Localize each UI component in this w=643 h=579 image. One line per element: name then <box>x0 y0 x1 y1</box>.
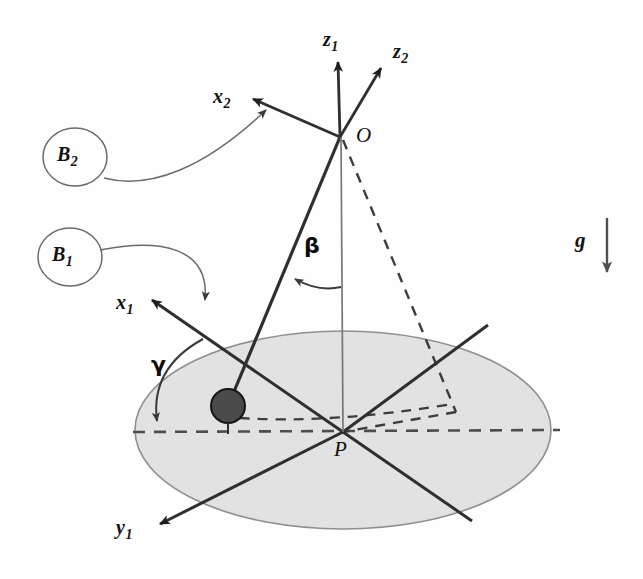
axis-line-x2[interactable] <box>253 99 340 137</box>
axis-label-z2: z2 <box>393 40 408 67</box>
body-label-B2: B2 <box>57 143 78 170</box>
axis-label-x1: x1 <box>116 291 134 318</box>
point-label-O: O <box>356 123 371 148</box>
angle-label-beta: β <box>304 233 320 258</box>
axis-line-z1[interactable] <box>338 62 340 137</box>
gravity-label-g: g <box>575 228 586 253</box>
particle-mass <box>211 389 245 423</box>
diagram-canvas <box>0 0 643 579</box>
axis-label-y1: y1 <box>116 516 132 543</box>
point-label-P: P <box>334 437 347 462</box>
axis-label-x2: x2 <box>213 85 231 112</box>
body-label-B1: B1 <box>52 243 73 270</box>
angle-label-gamma: γ <box>151 352 166 377</box>
leader-line-B2 <box>104 110 266 181</box>
axis-label-z1: z1 <box>323 28 338 55</box>
angle-arc-beta <box>295 279 341 288</box>
kinematics-diagram: z1 z2 x2 x1 y1 O P B2 B1 β γ g <box>0 0 643 579</box>
